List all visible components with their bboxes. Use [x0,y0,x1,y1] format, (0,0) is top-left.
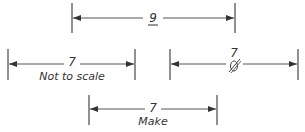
dimension-top: 9 [72,3,235,33]
dimension-note: Not to scale [39,70,105,83]
dimension-value: 7 [68,55,76,69]
dimension-value: 9 [149,11,157,25]
dimension-left: 7 Not to scale [8,49,135,83]
dimension-value: 7 [230,46,238,60]
dimension-value: 7 [149,101,157,115]
dimension-diagram: 9 7 Not to scale 7 7 Make [0,0,305,132]
dimension-bottom: 7 Make [89,95,217,128]
struck-zero-icon [229,59,241,73]
dimension-right: 7 [170,46,298,80]
dimension-note: Make [138,115,168,128]
